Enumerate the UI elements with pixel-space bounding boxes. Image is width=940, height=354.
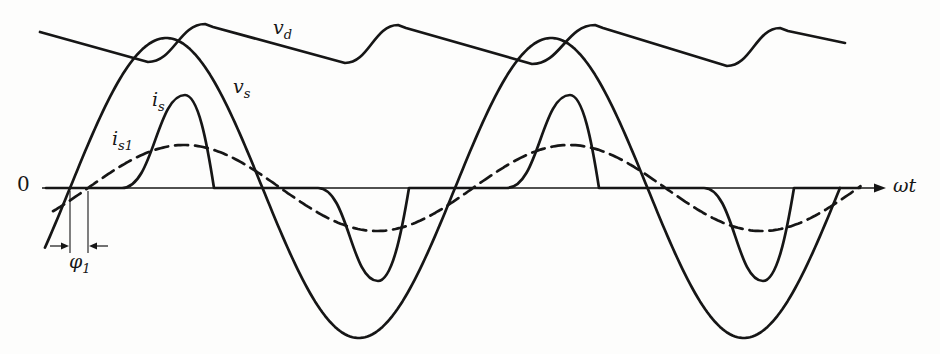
is-curve-label: is [152,90,165,109]
is1-label-sub: s1 [118,138,133,153]
is1-curve-label: is1 [112,129,133,148]
vs-label-sub: s [244,86,251,101]
vd-curve [40,24,845,66]
origin-zero-label: 0 [17,174,30,194]
waveform-figure: 0 vd vs is is1 φ1 ωt [0,0,940,354]
vs-label-main: v [233,75,244,97]
phi1-left-arrowhead [61,243,69,250]
vs-curve-label: vs [233,77,250,96]
x-axis-label: ωt [893,176,916,195]
vd-label-main: v [273,16,284,38]
phi1-angle-label: φ1 [69,252,91,271]
vd-curve-label: vd [273,18,292,37]
phi1-right-arrowhead [89,243,97,250]
x-axis-arrowhead [874,184,886,193]
waveform-plot [0,0,940,354]
is-label-sub: s [158,99,165,114]
phi1-label-sub: 1 [82,261,90,276]
vd-label-sub: d [284,27,292,42]
phi1-label-main: φ [69,250,82,272]
